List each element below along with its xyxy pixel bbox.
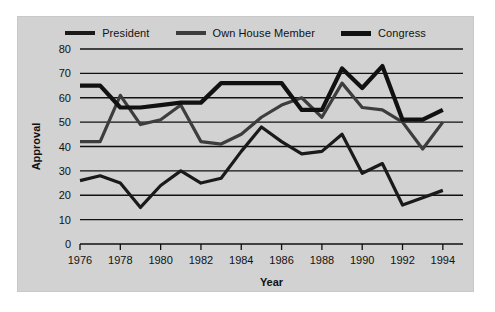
x-tick-labels-group: 1976197819801982198419861988199019921994 bbox=[68, 254, 455, 266]
x-tick-label-1986: 1986 bbox=[269, 254, 293, 266]
x-tick-label-1984: 1984 bbox=[229, 254, 253, 266]
chart-panel: President Own House Member Congress 0102… bbox=[18, 17, 473, 291]
x-tick-label-1988: 1988 bbox=[310, 254, 334, 266]
x-tick-label-1982: 1982 bbox=[189, 254, 213, 266]
x-tick-label-1992: 1992 bbox=[390, 254, 414, 266]
gridlines-group bbox=[80, 49, 463, 244]
x-tick-marks-group bbox=[80, 244, 443, 250]
y-tick-label-10: 10 bbox=[59, 214, 71, 226]
chart-plot-area: 01020304050607080 1976197819801982198419… bbox=[18, 17, 473, 291]
x-tick-label-1990: 1990 bbox=[350, 254, 374, 266]
x-tick-label-1980: 1980 bbox=[148, 254, 172, 266]
x-tick-label-1976: 1976 bbox=[68, 254, 92, 266]
y-tick-label-60: 60 bbox=[59, 92, 71, 104]
y-tick-label-70: 70 bbox=[59, 67, 71, 79]
series-line-own-house-member bbox=[80, 83, 443, 149]
x-axis-title: Year bbox=[260, 276, 284, 288]
series-line-congress bbox=[80, 66, 443, 120]
y-axis-title: Approval bbox=[30, 123, 42, 171]
y-tick-label-50: 50 bbox=[59, 116, 71, 128]
y-tick-label-0: 0 bbox=[65, 238, 71, 250]
chart-figure: President Own House Member Congress 0102… bbox=[0, 0, 495, 312]
x-tick-label-1978: 1978 bbox=[108, 254, 132, 266]
x-tick-label-1994: 1994 bbox=[431, 254, 455, 266]
data-series-group bbox=[80, 66, 443, 207]
y-tick-label-30: 30 bbox=[59, 165, 71, 177]
y-tick-label-20: 20 bbox=[59, 189, 71, 201]
y-tick-label-40: 40 bbox=[59, 141, 71, 153]
y-tick-label-80: 80 bbox=[59, 43, 71, 55]
y-tick-labels-group: 01020304050607080 bbox=[59, 43, 71, 250]
